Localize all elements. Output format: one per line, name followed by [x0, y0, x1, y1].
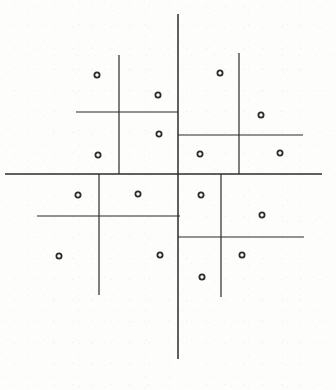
data-point-p5	[156, 131, 161, 136]
data-point-p7	[197, 151, 202, 156]
point-marker-center	[157, 94, 159, 96]
partition-diagram	[0, 0, 336, 390]
point-marker-center	[200, 194, 202, 196]
data-point-p14	[157, 252, 162, 257]
point-marker-center	[77, 194, 79, 196]
data-point-p8	[277, 150, 282, 155]
data-point-p15	[239, 252, 244, 257]
point-marker-center	[241, 254, 243, 256]
data-point-p4	[258, 112, 263, 117]
point-marker-center	[58, 255, 60, 257]
data-point-p1	[94, 72, 99, 77]
figure-canvas	[0, 0, 336, 390]
data-point-p6	[95, 152, 100, 157]
point-marker-center	[201, 276, 203, 278]
data-point-p13	[56, 253, 61, 258]
point-marker-center	[260, 114, 262, 116]
data-point-p3	[217, 70, 222, 75]
point-marker-center	[96, 74, 98, 76]
point-marker-center	[137, 193, 139, 195]
point-marker-center	[97, 154, 99, 156]
point-marker-center	[261, 214, 263, 216]
point-marker-center	[199, 153, 201, 155]
point-marker-center	[159, 254, 161, 256]
point-marker-center	[279, 152, 281, 154]
point-marker-center	[158, 133, 160, 135]
data-point-p10	[135, 191, 140, 196]
point-marker-center	[219, 72, 221, 74]
data-point-p9	[75, 192, 80, 197]
data-point-p16	[199, 274, 204, 279]
data-point-p2	[155, 92, 160, 97]
data-point-p11	[198, 192, 203, 197]
figure-background	[0, 0, 336, 390]
data-point-p12	[259, 212, 264, 217]
